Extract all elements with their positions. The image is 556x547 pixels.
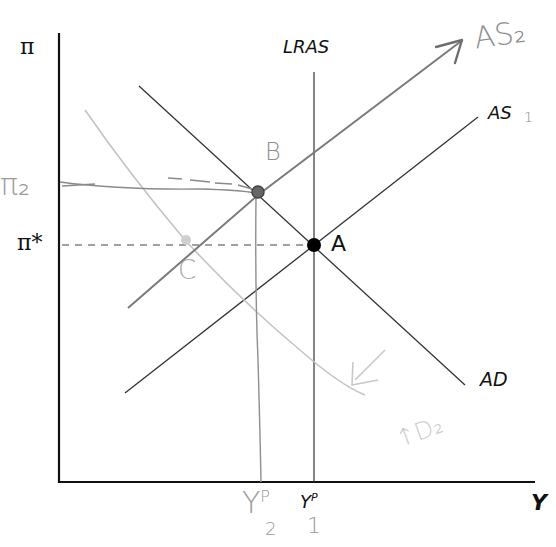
point-c xyxy=(181,235,191,245)
pi2-handwritten-label: π₂ xyxy=(0,170,30,200)
pi-star-label: π* xyxy=(17,232,42,254)
as1-label: AS xyxy=(488,104,512,122)
y2-handwritten-vertical-line xyxy=(256,196,261,482)
point-c-label: C xyxy=(178,257,196,283)
point-b xyxy=(252,186,264,198)
point-a-label: A xyxy=(331,233,346,255)
ad-shift-arrow-icon xyxy=(352,350,385,385)
y-potential-text: Y xyxy=(300,491,311,512)
y-potential-label: YP xyxy=(300,492,318,511)
y-potential-sup: P xyxy=(311,491,318,504)
lras-label: LRAS xyxy=(283,38,329,56)
point-a xyxy=(307,238,321,252)
ad-label: AD xyxy=(480,370,508,389)
y-axis-label: π xyxy=(20,36,34,58)
y2-handwritten-text: Y xyxy=(242,485,260,520)
y1-subscript-handwritten: 1 xyxy=(307,515,321,537)
point-b-label: B xyxy=(265,140,281,164)
as1-subscript-handwritten: 1 xyxy=(524,110,533,124)
y2-subscript-handwritten: 2 xyxy=(265,520,276,538)
y2-handwritten-sup: P xyxy=(260,487,270,506)
pi2-handwritten-dashes xyxy=(62,178,252,189)
as2-handwritten-label: AS₂ xyxy=(472,17,527,54)
y2-handwritten-label: YP xyxy=(242,488,270,518)
ad2-handwritten-line xyxy=(85,110,365,395)
x-axis-label: Y xyxy=(531,492,547,514)
as-ad-diagram xyxy=(0,0,556,547)
